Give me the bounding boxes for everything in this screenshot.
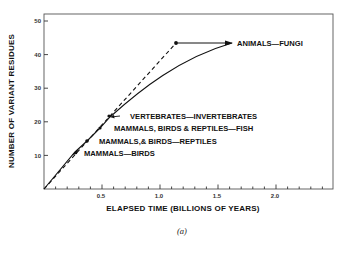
- chart: 10 20 30 40 50 0.5 1.0 1.5 2.0 NUMBER OF…: [0, 0, 352, 253]
- y-axis-title: NUMBER OF VARIANT RESIDUES: [7, 34, 16, 168]
- y-tick-50: 50: [34, 18, 41, 24]
- annotation-mammals-birds-reptiles: MAMMALS,& BIRDS—REPTILES: [99, 137, 217, 146]
- arrowhead-animals-fungi: [225, 41, 233, 46]
- annotation-vertebrates-invertebrates: VERTEBRATES—INVERTEBRATES: [130, 112, 257, 121]
- y-tick-40: 40: [34, 52, 41, 58]
- figure-caption: (a): [177, 226, 187, 236]
- annotation-mammals-birds: MAMMALS—BIRDS: [84, 149, 155, 158]
- y-tick-30: 30: [34, 85, 41, 91]
- point-fish: [98, 126, 101, 129]
- x-tick-1-0: 1.0: [155, 193, 164, 199]
- y-tick-10: 10: [34, 153, 41, 159]
- y-tick-20: 20: [34, 119, 41, 125]
- x-tick-1-5: 1.5: [213, 193, 222, 199]
- annotation-mammals-birds-reptiles-fish: MAMMALS, BIRDS & REPTILES—FISH: [114, 124, 253, 133]
- x-axis-title: ELAPSED TIME (BILLIONS OF YEARS): [106, 204, 260, 213]
- x-axis: [56, 185, 323, 190]
- point-vertebrates-invertebrates: [107, 114, 110, 117]
- x-tick-2-0: 2.0: [271, 193, 280, 199]
- x-tick-0-5: 0.5: [97, 193, 106, 199]
- y-axis: [44, 21, 48, 155]
- point-mammals-birds-reptiles: [85, 139, 89, 143]
- annotation-animals-fungi: ANIMALS—FUNGI: [237, 39, 303, 48]
